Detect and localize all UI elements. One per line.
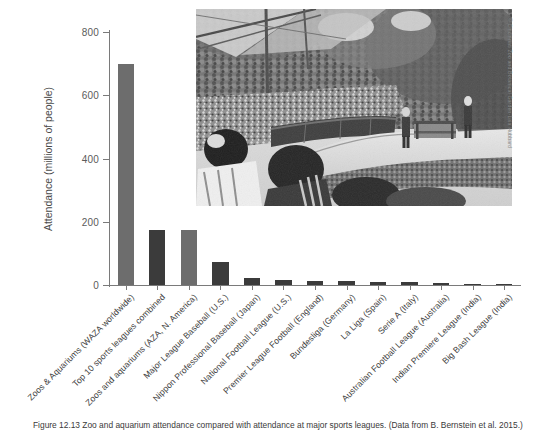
bar-0 [118,64,134,285]
y-tick-label-800: 800 [0,27,99,38]
y-tick-400 [103,159,110,160]
y-tick-800 [103,32,110,33]
bar-3 [212,262,228,285]
x-tick-9 [410,285,411,290]
zoo-amphitheater-photo [196,9,512,206]
x-tick-7 [347,285,348,290]
x-tick-label-0: Zoos & Aquariums (WAZA worldwide) [25,292,135,402]
bar-1 [149,230,165,285]
bar-4 [244,278,260,285]
y-tick-label-200: 200 [0,216,99,227]
y-tick-label-0: 0 [0,280,99,291]
x-tick-5 [283,285,284,290]
y-tick-200 [103,222,110,223]
y-tick-label-400: 400 [0,153,99,164]
x-tick-1 [157,285,158,290]
x-tick-11 [473,285,474,290]
y-tick-0 [103,285,110,286]
photo-credit: © Cincinnati Zoo and Botanical Garden-Li… [507,18,513,148]
x-tick-10 [441,285,442,290]
y-tick-600 [103,95,110,96]
x-tick-3 [220,285,221,290]
figure-caption: Figure 12.13 Zoo and aquarium attendance… [33,420,533,430]
y-tick-label-600: 600 [0,90,99,101]
bar-2 [181,230,197,285]
x-tick-2 [189,285,190,290]
x-tick-6 [315,285,316,290]
x-tick-12 [504,285,505,290]
x-tick-0 [126,285,127,290]
x-tick-4 [252,285,253,290]
x-tick-8 [378,285,379,290]
